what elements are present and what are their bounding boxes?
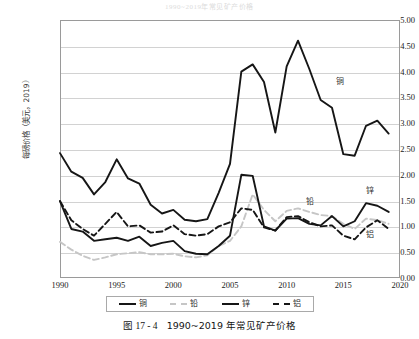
inline-label-zinc: 锌 [366,187,374,195]
line-copper [60,41,389,222]
legend-swatch-zinc-icon [222,303,239,305]
x-tick-label: 2020 [378,281,419,290]
inline-label-aluminum: 铝 [366,231,374,239]
line-zinc [60,175,389,254]
inline-label-copper: 铜 [336,78,344,86]
figure-caption: 图 17 - 4 1990~2019 年常见矿产价格 [0,320,419,332]
x-tick-label: 2005 [208,281,252,290]
legend-label-aluminum: 铝 [293,300,301,308]
series-lines [60,20,400,278]
chart-figure: 1990~2019年常见矿产价格 每磅价格（美元，2019） 5.004.504… [0,0,419,339]
figure-caption-text: 1990~2019 年常见矿产价格 [167,320,296,331]
legend-label-copper: 铜 [139,300,147,308]
legend-swatch-copper-icon [119,303,136,305]
y-axis-title: 每磅价格（美元，2019） [20,33,31,203]
line-lead [60,194,389,260]
x-tick-label: 1990 [38,281,82,290]
x-tick-label: 2000 [151,281,195,290]
x-tick-label: 2010 [265,281,309,290]
figure-number: 图 17 - 4 [123,321,158,331]
inline-label-lead: 铅 [306,198,314,206]
legend: 铜 铅 锌 铝 [106,296,314,312]
legend-swatch-lead-icon [170,303,187,305]
legend-item-lead: 铅 [170,300,198,308]
legend-label-lead: 铅 [190,300,198,308]
x-tick-label: 1995 [95,281,139,290]
x-tick-label: 2015 [321,281,365,290]
legend-item-zinc: 锌 [222,300,250,308]
chart-title: 1990~2019年常见矿产价格 [0,1,419,11]
legend-item-copper: 铜 [119,300,147,308]
legend-label-zinc: 锌 [242,300,250,308]
legend-swatch-aluminum-icon [273,303,290,305]
legend-item-aluminum: 铝 [273,300,301,308]
